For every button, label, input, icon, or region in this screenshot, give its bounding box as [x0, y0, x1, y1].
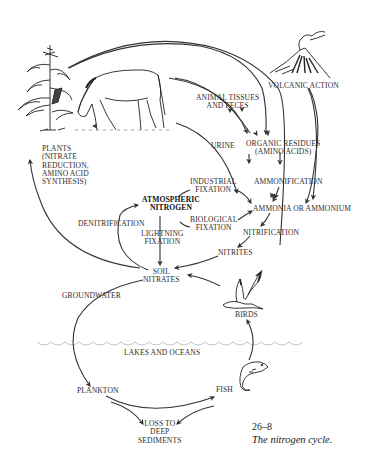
- label-loss-to-deep-sediments: LOSS TO DEEP SEDIMENTS: [138, 420, 182, 445]
- fish-icon: [240, 362, 268, 391]
- label-groundwater: GROUNDWATER: [62, 292, 121, 300]
- water-surface-icon: [37, 342, 303, 345]
- label-plants: PLANTS (NITRATE REDUCTION, AMINO ACID SY…: [42, 145, 89, 186]
- label-biological-fixation: BIOLOGICAL FIXATION: [190, 216, 237, 233]
- label-denitrification: DENITRIFICATION: [78, 220, 144, 228]
- label-atmospheric-nitrogen: ATMOSPHERIC NITROGEN: [142, 196, 200, 213]
- label-birds: BIRDS: [235, 311, 258, 319]
- nitrogen-cycle-diagram: [0, 0, 378, 465]
- figure-caption: The nitrogen cycle.: [252, 434, 332, 445]
- volcano-icon: [270, 32, 330, 79]
- label-organic-residues: ORGANIC RESIDUES (AMINO ACIDS): [246, 140, 320, 157]
- label-lightning-fixation: LIGHTNING FIXATION: [141, 230, 184, 247]
- horse-icon: [75, 70, 170, 130]
- label-ammonia-or-ammonium: AMMONIA OR AMMONIUM: [253, 205, 351, 213]
- label-urine: URINE: [211, 142, 235, 150]
- label-volcanic-action: VOLCANIC ACTION: [268, 82, 339, 90]
- label-fish: FISH: [216, 386, 233, 394]
- label-industrial-fixation: INDUSTRIAL FIXATION: [190, 178, 237, 195]
- label-soil-nitrates: SOIL NITRATES: [143, 268, 180, 285]
- label-nitrification: NITRIFICATION: [243, 229, 299, 237]
- label-ammonification: AMMONIFICATION: [254, 178, 322, 186]
- figure-number: 26–8: [252, 421, 272, 432]
- bird-icon: [223, 272, 263, 309]
- label-plankton: PLANKTON: [77, 387, 119, 395]
- label-lakes-and-oceans: LAKES AND OCEANS: [124, 349, 200, 357]
- label-nitrites: NITRITES: [218, 249, 253, 257]
- label-animal-tissues: ANIMAL TISSUES AND FECES: [196, 94, 259, 111]
- corn-plant-icon: [18, 45, 73, 131]
